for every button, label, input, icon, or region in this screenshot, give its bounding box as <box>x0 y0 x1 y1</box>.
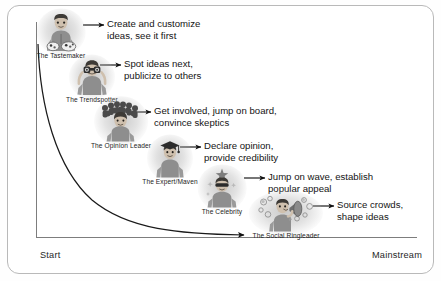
callout-opinion-leader: Get involved, jump on board, convince sk… <box>154 105 277 130</box>
callout-line-2: publicize to others <box>124 70 201 82</box>
persona-caption: The Opinion Leader <box>91 142 151 149</box>
persona-caption: The Social Ringleader <box>253 232 320 239</box>
callout-tastemaker: Create and customize ideas, see it first <box>107 18 200 43</box>
callout-line-1: Spot ideas next, <box>124 58 193 69</box>
persona-trendspotter[interactable]: The Trendspotter <box>74 58 110 96</box>
person-with-megaphone-icon <box>257 194 315 232</box>
axis-label-mainstream: Mainstream <box>372 250 422 260</box>
callout-line-1: Create and customize <box>107 18 200 29</box>
persona-caption: The Expert/Maven <box>142 178 197 185</box>
persona-social-ringleader[interactable]: The Social Ringleader <box>257 194 315 232</box>
person-with-palette-icon <box>42 12 80 52</box>
persona-caption: The Celebrity <box>202 208 243 215</box>
callout-social-ringleader: Source crowds, shape ideas <box>337 199 403 224</box>
person-with-graduation-cap-icon <box>152 138 188 178</box>
person-with-sunglasses-star-icon <box>203 168 241 208</box>
callout-line-2: shape ideas <box>337 211 403 223</box>
person-with-binoculars-icon <box>74 58 110 96</box>
x-axis-line <box>36 237 417 238</box>
callout-line-1: Get involved, jump on board, <box>154 105 277 116</box>
callout-expert-maven: Declare opinion, provide credibility <box>204 140 278 165</box>
callout-trendspotter: Spot ideas next, publicize to others <box>124 58 201 83</box>
callout-line-1: Jump on wave, establish <box>268 171 373 182</box>
callout-line-1: Declare opinion, <box>204 140 273 151</box>
callout-line-2: convince skeptics <box>154 117 277 129</box>
person-with-crowd-icon <box>100 100 142 142</box>
callout-line-2: provide credibility <box>204 152 278 164</box>
persona-expert-maven[interactable]: The Expert/Maven <box>152 138 188 178</box>
persona-celebrity[interactable]: The Celebrity <box>203 168 241 208</box>
axis-label-start: Start <box>40 250 60 260</box>
diagram-canvas: Start Mainstream <box>0 0 441 281</box>
callout-line-1: Source crowds, <box>337 199 403 210</box>
callout-line-2: ideas, see it first <box>107 30 200 42</box>
persona-opinion-leader[interactable]: The Opinion Leader <box>100 100 142 142</box>
persona-tastemaker[interactable]: The Tastemaker <box>42 12 80 52</box>
